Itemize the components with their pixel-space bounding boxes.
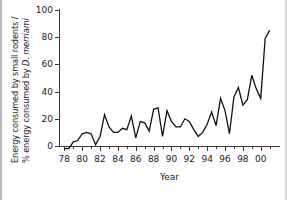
y-axis-tick-label: 60 [29, 60, 53, 69]
x-axis-minor-tick [180, 147, 181, 149]
x-axis-minor-tick [252, 147, 253, 149]
y-axis-tick-label: 20 [29, 115, 53, 124]
y-axis-tick-label-text: 100 [31, 6, 53, 15]
x-axis-tick [189, 147, 190, 151]
data-series-svg [59, 10, 275, 146]
x-axis-tick [261, 147, 262, 151]
x-axis-minor-tick [234, 147, 235, 149]
x-axis-minor-tick [163, 147, 164, 149]
y-axis-title-line-1: Energy consumed by small rodents / [10, 11, 21, 163]
x-axis-minor-tick [91, 147, 92, 149]
x-axis-tick [100, 147, 101, 151]
scan-edge-right [285, 0, 287, 200]
chart-figure: Energy consumed by small rodents / % ene… [0, 0, 287, 200]
y-axis-tick-label-text: 60 [31, 60, 53, 69]
y-axis-tick-label-text: 80 [31, 33, 53, 42]
x-axis-minor-tick [73, 147, 74, 149]
y-axis-tick [55, 146, 59, 147]
x-axis-tick [82, 147, 83, 151]
plot-area [59, 10, 275, 146]
x-axis-tick-label: 00 [251, 154, 271, 164]
line-series-small-rodent-energy [64, 30, 269, 148]
x-axis-line [59, 146, 280, 147]
y-axis-title: Energy consumed by small rodents / % ene… [0, 0, 40, 160]
x-axis-minor-tick [216, 147, 217, 149]
x-axis-tick [171, 147, 172, 151]
x-axis-minor-tick [198, 147, 199, 149]
y-axis-tick-label-text: 20 [31, 115, 53, 124]
y-axis-tick-label: 80 [29, 33, 53, 42]
x-axis-tick [154, 147, 155, 151]
x-axis-tick [225, 147, 226, 151]
x-axis-tick [136, 147, 137, 151]
y-axis-tick-label: 100 [29, 6, 53, 15]
x-axis-title: Year [59, 172, 280, 182]
x-axis-minor-tick [145, 147, 146, 149]
y-axis-tick-label-text: 40 [31, 88, 53, 97]
x-axis-tick [207, 147, 208, 151]
x-axis-tick [118, 147, 119, 151]
y-axis-tick-label: 40 [29, 88, 53, 97]
y-axis-tick-label: 0 [29, 142, 53, 151]
x-axis-tick [243, 147, 244, 151]
x-axis-minor-tick [270, 147, 271, 149]
x-axis-minor-tick [109, 147, 110, 149]
x-axis-minor-tick [127, 147, 128, 149]
y-axis-tick-label-text: 0 [31, 142, 53, 151]
